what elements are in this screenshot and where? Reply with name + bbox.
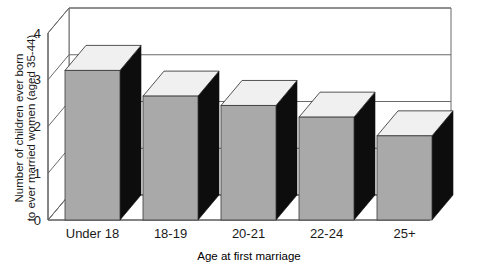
bar-side-face: [120, 45, 141, 220]
bar-3: [221, 80, 297, 220]
x-tick-label: 25+: [393, 226, 415, 241]
bar-4: [299, 92, 375, 220]
bar-5: [377, 111, 453, 220]
bar-2: [143, 71, 219, 220]
bar-side-face: [198, 71, 219, 220]
x-axis-tick-labels: Under 1818-1920-2122-2425+: [66, 226, 416, 241]
bar-front-face: [143, 96, 198, 220]
x-tick-label: Under 18: [66, 226, 119, 241]
bar-1: [65, 45, 141, 220]
chart-canvas: 01234 Under 1818-1920-2122-2425+ Age at …: [0, 0, 480, 265]
y-axis-title-line1: Number of children ever born: [13, 54, 25, 203]
bar-front-face: [377, 136, 432, 220]
bar-front-face: [299, 117, 354, 220]
x-axis-title: Age at first marriage: [197, 250, 301, 262]
bar-front-face: [65, 70, 120, 220]
bar-front-face: [221, 105, 276, 220]
y-axis-title-line2: to ever married women (aged 35-44): [25, 35, 37, 222]
x-tick-label: 22-24: [310, 226, 343, 241]
x-tick-label: 18-19: [154, 226, 187, 241]
bar-chart-figure: 01234 Under 1818-1920-2122-2425+ Age at …: [0, 0, 480, 265]
x-tick-label: 20-21: [232, 226, 265, 241]
y-axis-title: Number of children ever born to ever mar…: [13, 35, 37, 222]
